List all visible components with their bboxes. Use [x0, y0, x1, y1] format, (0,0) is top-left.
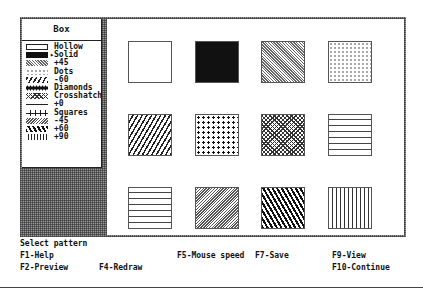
pattern-list: Hollow▸Solid+45Dots-60DiamondsCrosshatch… — [22, 41, 101, 141]
f10-continue-key[interactable]: F10-Continue — [332, 263, 390, 273]
swatch-hollow[interactable] — [128, 41, 172, 83]
pattern-hollow-icon — [26, 44, 48, 50]
swatch-squares[interactable] — [128, 187, 172, 229]
f4-redraw-key[interactable]: F4-Redraw — [99, 263, 142, 273]
pattern-p45-icon — [26, 60, 48, 66]
pattern-diamonds-icon — [26, 85, 48, 91]
main-frame: Box Hollow▸Solid+45Dots-60DiamondsCrossh… — [20, 17, 406, 237]
status-prompt: Select pattern — [20, 239, 87, 249]
swatch-solid[interactable] — [195, 41, 239, 83]
swatch-zero[interactable] — [328, 114, 372, 156]
swatch-dots[interactable] — [328, 41, 372, 83]
pattern-solid-icon — [26, 52, 48, 58]
left-panel: Box Hollow▸Solid+45Dots-60DiamondsCrossh… — [22, 19, 102, 235]
menu-title: Box — [22, 19, 101, 41]
preview-canvas — [107, 19, 404, 235]
pattern-item-p90[interactable]: +90 — [22, 133, 101, 141]
f5-mouse-speed-key[interactable]: F5-Mouse speed — [177, 251, 244, 261]
pattern-menu: Box Hollow▸Solid+45Dots-60DiamondsCrossh… — [22, 19, 102, 168]
f1-help-key[interactable]: F1-Help — [20, 251, 54, 261]
f7-save-key[interactable]: F7-Save — [255, 251, 289, 261]
swatch-p45[interactable] — [261, 41, 305, 83]
bottom-divider — [0, 287, 423, 288]
pattern-dots-icon — [26, 69, 48, 75]
f2-preview-key[interactable]: F2-Preview — [20, 263, 68, 273]
swatch-p60[interactable] — [261, 187, 305, 229]
pattern-item-label: +90 — [54, 133, 68, 141]
swatch-m45[interactable] — [195, 187, 239, 229]
pattern-cross-icon — [26, 93, 48, 99]
pattern-m60-icon — [26, 77, 48, 83]
swatch-m60[interactable] — [128, 114, 172, 156]
pattern-p60-icon — [26, 126, 48, 132]
pattern-squares-icon — [26, 110, 48, 116]
f9-view-key[interactable]: F9-View — [332, 251, 366, 261]
pattern-m45-icon — [26, 118, 48, 124]
swatch-diamonds[interactable] — [195, 114, 239, 156]
swatch-cross[interactable] — [261, 114, 305, 156]
pattern-zero-icon — [26, 101, 48, 107]
pattern-p90-icon — [26, 134, 48, 140]
swatch-p90[interactable] — [328, 187, 372, 229]
